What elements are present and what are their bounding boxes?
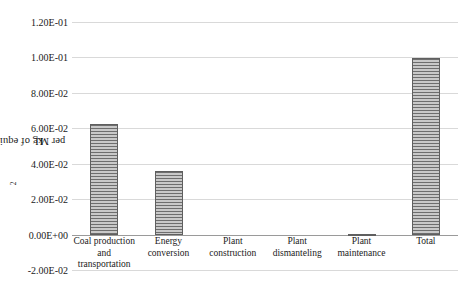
y-axis-title-subscript: 2 xyxy=(10,181,19,185)
y-axis-tick-label: 4.00E-02 xyxy=(20,158,68,169)
bar-series xyxy=(72,22,458,270)
y-axis-tick-label: -2.00E-02 xyxy=(20,265,68,276)
x-axis-category-labels: Coal productionandtransportationEnergyco… xyxy=(72,236,458,280)
x-axis-category-label: Total xyxy=(394,236,458,248)
x-axis-category-label: Plantdismanteling xyxy=(265,236,329,259)
x-axis-category-label: Plantconstruction xyxy=(201,236,265,259)
y-axis-tick-label: 1.20E-01 xyxy=(20,17,68,28)
x-axis-category-label: Coal productionandtransportation xyxy=(72,236,136,271)
y-axis-title: kg of equivalent CO2 per MJ xyxy=(0,0,22,282)
bar xyxy=(412,58,440,234)
y-axis-tick-label: 1.00E-01 xyxy=(20,52,68,63)
plot-area xyxy=(72,22,458,270)
y-axis-tick-label: 2.00E-02 xyxy=(20,194,68,205)
bar-chart-figure: kg of equivalent CO2 per MJ 1.20E-011.00… xyxy=(0,0,466,282)
y-axis-tick-labels: 1.20E-011.00E-018.00E-026.00E-024.00E-02… xyxy=(20,0,68,282)
bar xyxy=(90,124,118,234)
y-axis-tick-label: 6.00E-02 xyxy=(20,123,68,134)
y-axis-tick-label: 8.00E-02 xyxy=(20,87,68,98)
y-axis-tick-label: 0.00E+00 xyxy=(20,229,68,240)
x-axis-category-label: Energyconversion xyxy=(136,236,200,259)
x-axis-category-label: Plantmaintenance xyxy=(329,236,393,259)
bar xyxy=(155,171,183,234)
